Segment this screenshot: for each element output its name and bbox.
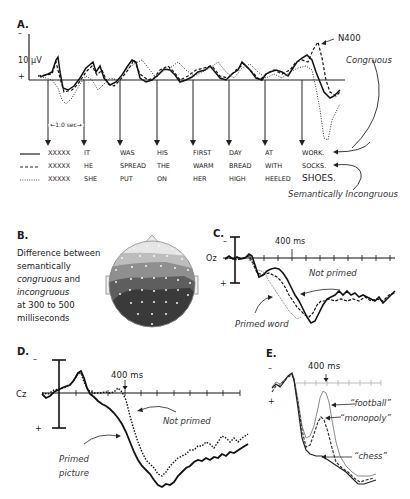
panel-b-description: Difference between semantically congruou… <box>17 247 100 325</box>
chess-label: “chess” <box>354 451 387 461</box>
congruous-trace <box>40 55 340 98</box>
time-scale-label: ←1.0 sec→ <box>50 121 82 128</box>
incongruous-trace <box>38 42 340 96</box>
congruous-bracket <box>352 60 379 148</box>
panel-d-plot <box>0 330 260 499</box>
congruous-label: Congruous <box>346 55 392 65</box>
legend-styles <box>18 148 48 188</box>
panel-b-label: B. <box>17 230 28 241</box>
football-label: “football” <box>350 398 391 408</box>
panel-a-erp-plot: ←1.0 sec→ <box>0 0 410 150</box>
panel-c-primed-word-label: Primed word <box>235 319 289 329</box>
incongruous-arrows <box>325 140 385 195</box>
panel-d-primed-picture-label: Primed picture <box>59 452 99 480</box>
scalp-topography-map <box>104 232 200 332</box>
panel-c-not-primed-label: Not primed <box>309 268 357 278</box>
semantically-incongruous-label: Semantically Incongruous <box>288 189 398 199</box>
panel-d-not-primed-label: Not primed <box>163 416 211 426</box>
monopoly-label: “monopoly” <box>340 413 391 423</box>
n400-label: N400 <box>338 33 361 43</box>
